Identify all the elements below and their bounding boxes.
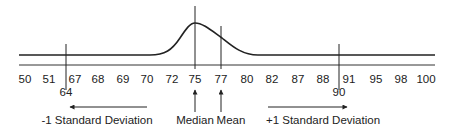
tick-label: 67 xyxy=(69,73,82,85)
tick-label: 80 xyxy=(241,73,254,85)
tick-label: 50 xyxy=(19,73,32,85)
tick-label: 100 xyxy=(416,73,435,85)
tick-label: 70 xyxy=(141,73,154,85)
tick-label: 98 xyxy=(395,73,408,85)
tick-label: 82 xyxy=(266,73,279,85)
tick-label: 77 xyxy=(215,73,228,85)
minus-one-sd-value: 64 xyxy=(60,86,73,98)
tick-label: 51 xyxy=(43,73,56,85)
tick-label: 75 xyxy=(189,73,202,85)
tick-label: 68 xyxy=(92,73,105,85)
tick-label: 88 xyxy=(317,73,330,85)
minus-one-sd-label: -1 Standard Deviation xyxy=(41,114,152,126)
mean-label: Mean xyxy=(217,114,246,126)
tick-label: 91 xyxy=(343,73,356,85)
tick-label: 95 xyxy=(370,73,383,85)
tick-label: 69 xyxy=(117,73,130,85)
distribution-curve xyxy=(19,23,435,55)
tick-label: 72 xyxy=(166,73,179,85)
axis-tick-labels: 50 51 67 68 69 70 72 75 77 80 82 87 88 9… xyxy=(19,73,436,85)
tick-label: 87 xyxy=(292,73,305,85)
plus-one-sd-value: 90 xyxy=(333,86,346,98)
distribution-diagram: 50 51 67 68 69 70 72 75 77 80 82 87 88 9… xyxy=(0,0,451,136)
median-label: Median xyxy=(176,114,214,126)
plus-one-sd-label: +1 Standard Deviation xyxy=(266,114,380,126)
